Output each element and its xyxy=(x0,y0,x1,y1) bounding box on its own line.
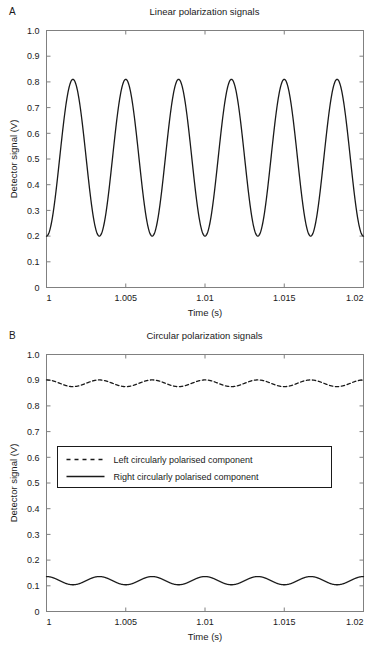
y-tick-label: 0.4 xyxy=(27,180,40,190)
series-line-0 xyxy=(47,79,364,236)
y-tick-label: 0.3 xyxy=(27,206,40,216)
x-tick-label: 1 xyxy=(47,293,52,303)
y-tick-label: 0.7 xyxy=(27,427,40,437)
panel-a-plot: 00.10.20.30.40.50.60.70.80.91.011.0051.0… xyxy=(0,0,377,322)
y-tick-label: 0.9 xyxy=(27,375,40,385)
y-tick-label: 0.8 xyxy=(27,77,40,87)
panel-b: B Circular polarization signals 00.10.20… xyxy=(0,324,377,646)
x-tick-label: 1.005 xyxy=(114,617,137,627)
y-tick-label: 0.2 xyxy=(27,555,40,565)
y-axis-title: Detector signal (V) xyxy=(8,444,19,523)
series-line-0 xyxy=(47,380,364,387)
x-tick-label: 1.01 xyxy=(196,293,214,303)
legend: Left circularly polarised componentRight… xyxy=(58,447,332,488)
y-tick-label: 0.8 xyxy=(27,401,40,411)
y-tick-label: 0.6 xyxy=(27,129,40,139)
legend-label-0: Left circularly polarised component xyxy=(114,455,254,465)
panel-a: A Linear polarization signals 00.10.20.3… xyxy=(0,0,377,322)
y-tick-label: 0.5 xyxy=(27,478,40,488)
y-tick-label: 0.1 xyxy=(27,257,40,267)
y-axis-title: Detector signal (V) xyxy=(8,120,19,199)
y-tick-label: 0.6 xyxy=(27,453,40,463)
series-line-1 xyxy=(47,577,364,585)
y-tick-label: 0.9 xyxy=(27,51,40,61)
x-axis-title: Time (s) xyxy=(188,307,222,318)
plot-axes-box xyxy=(47,31,364,288)
x-tick-label: 1.005 xyxy=(114,293,137,303)
x-tick-label: 1 xyxy=(47,617,52,627)
y-tick-label: 0.2 xyxy=(27,231,40,241)
x-axis-title: Time (s) xyxy=(188,631,222,642)
figure-root: A Linear polarization signals 00.10.20.3… xyxy=(0,0,377,646)
legend-label-1: Right circularly polarised component xyxy=(114,472,260,482)
y-tick-label: 0.3 xyxy=(27,530,40,540)
x-tick-label: 1.02 xyxy=(346,293,364,303)
y-tick-label: 0.7 xyxy=(27,103,40,113)
x-tick-label: 1.02 xyxy=(346,617,364,627)
x-tick-label: 1.01 xyxy=(196,617,214,627)
y-tick-label: 0.4 xyxy=(27,504,40,514)
y-tick-label: 0.1 xyxy=(27,581,40,591)
y-tick-label: 1.0 xyxy=(27,350,40,360)
panel-b-plot: 00.10.20.30.40.50.60.70.80.91.011.0051.0… xyxy=(0,324,377,646)
y-tick-label: 0.5 xyxy=(27,154,40,164)
x-tick-label: 1.015 xyxy=(273,617,296,627)
y-tick-label: 0 xyxy=(34,283,39,293)
y-tick-label: 1.0 xyxy=(27,26,40,36)
y-tick-label: 0 xyxy=(34,607,39,617)
x-tick-label: 1.015 xyxy=(273,293,296,303)
